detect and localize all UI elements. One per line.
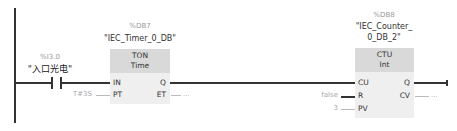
timer-pin-pt: PT — [113, 90, 122, 99]
wire-counter-q-out — [414, 82, 447, 84]
wire-r — [341, 96, 355, 98]
counter-datatype: Int — [355, 60, 414, 70]
timer-datatype: Time — [110, 61, 170, 71]
wire-pv — [341, 109, 355, 110]
wire-et — [171, 95, 181, 96]
counter-cv-value[interactable]: ... — [431, 91, 438, 99]
contact-tag[interactable]: "入口光电" — [16, 62, 84, 75]
timer-pt-value[interactable]: T#3S — [60, 90, 92, 98]
counter-pin-q: Q — [404, 78, 410, 87]
timer-type: TON — [110, 51, 170, 61]
ctu-counter-block[interactable]: CTU Int CU R PV Q CV — [355, 48, 414, 118]
timer-instance-name[interactable]: "IEC_Timer_0_DB" — [95, 34, 185, 43]
wire-pt — [96, 95, 110, 96]
counter-pin-pv: PV — [358, 104, 368, 113]
counter-instance-name-line1[interactable]: "IEC_Counter_ — [344, 22, 424, 31]
timer-et-value[interactable]: ... — [183, 90, 190, 98]
contact-address: %I3.0 — [20, 53, 80, 61]
timer-pin-q: Q — [160, 78, 166, 87]
timer-instance-address: %DB7 — [110, 22, 170, 30]
contact-left-bar-icon — [51, 77, 53, 89]
counter-instance-name-line2[interactable]: 0_DB_2" — [344, 33, 424, 42]
rung-end-tick-icon — [446, 80, 448, 86]
counter-pin-r: R — [358, 91, 363, 100]
ctu-header: CTU Int — [355, 48, 414, 72]
counter-pin-cv: CV — [400, 91, 410, 100]
counter-type: CTU — [355, 50, 414, 60]
counter-pin-cu: CU — [358, 78, 369, 87]
counter-instance-address: %DB8 — [354, 11, 414, 19]
counter-r-value[interactable]: false — [308, 91, 338, 99]
ton-header: TON Time — [110, 49, 170, 73]
ton-timer-block[interactable]: TON Time IN PT Q ET — [110, 49, 170, 104]
timer-pin-in: IN — [113, 78, 121, 87]
wire-cv — [415, 96, 429, 97]
counter-pv-value[interactable]: 3 — [328, 104, 338, 112]
wire-contact-to-timer — [62, 82, 110, 84]
timer-pin-et: ET — [157, 90, 166, 99]
wire-timer-to-counter — [170, 82, 356, 84]
wire-rail-to-contact — [15, 82, 51, 84]
